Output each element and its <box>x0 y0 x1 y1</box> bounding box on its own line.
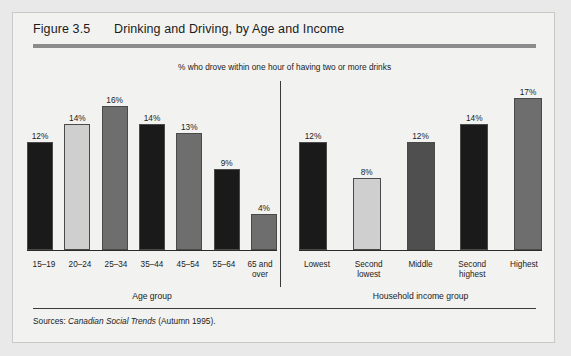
bar-column: 14% <box>460 88 488 250</box>
bar-rect <box>64 124 90 250</box>
bars-income: 12%8%12%14%17% <box>293 88 548 250</box>
bar-column: 9% <box>214 88 240 250</box>
axis-title-income: Household income group <box>293 291 548 301</box>
category-label: 55–64 <box>207 257 241 279</box>
bar-rect <box>407 142 435 250</box>
category-label: Second highest <box>454 257 490 279</box>
bar-rect <box>214 169 240 250</box>
category-label: Highest <box>506 257 542 279</box>
bar-rect <box>514 98 542 250</box>
category-label: Second lowest <box>351 257 387 279</box>
figure-number: Figure 3.5 <box>33 22 90 36</box>
axis-line-income <box>299 250 542 251</box>
bar-rect <box>27 142 53 250</box>
bar-column: 13% <box>176 88 202 250</box>
chart-age-group: 12%14%16%14%13%9%4% 15–1920–2425–3435–44… <box>21 75 283 301</box>
bar-value-label: 12% <box>412 132 429 140</box>
bar-column: 14% <box>64 88 90 250</box>
category-labels-income: LowestSecond lowestMiddleSecond highestH… <box>293 257 548 279</box>
bar-value-label: 14% <box>144 114 161 122</box>
bar-rect <box>460 124 488 250</box>
axis-title-age: Age group <box>21 291 283 301</box>
source-divider-rule <box>33 308 536 309</box>
bar-column: 12% <box>299 88 327 250</box>
category-label: Middle <box>403 257 439 279</box>
title-divider-rule <box>33 44 536 48</box>
bar-rect <box>139 124 165 250</box>
category-labels-age: 15–1920–2425–3435–4445–5455–6465 and ove… <box>21 257 283 279</box>
bars-age: 12%14%16%14%13%9%4% <box>21 88 283 250</box>
category-label: 45–54 <box>171 257 205 279</box>
bar-value-label: 12% <box>32 132 49 140</box>
source-suffix: (Autumn 1995). <box>158 316 215 326</box>
figure-title: Drinking and Driving, by Age and Income <box>114 22 344 36</box>
bar-rect <box>299 142 327 250</box>
bar-column: 8% <box>353 88 381 250</box>
bar-value-label: 4% <box>258 204 270 212</box>
bar-column: 12% <box>27 88 53 250</box>
chart-subtitle: % who drove within one hour of having tw… <box>13 62 556 72</box>
bar-value-label: 17% <box>520 88 537 96</box>
bar-rect <box>176 133 202 250</box>
bar-column: 16% <box>102 88 128 250</box>
category-label: 15–19 <box>27 257 61 279</box>
charts-container: 12%14%16%14%13%9%4% 15–1920–2425–3435–44… <box>13 75 556 301</box>
category-label: 20–24 <box>63 257 97 279</box>
source-publication: Canadian Social Trends <box>68 316 156 326</box>
source-line: Sources: Canadian Social Trends (Autumn … <box>33 316 216 326</box>
bar-value-label: 8% <box>361 168 373 176</box>
bar-column: 17% <box>514 88 542 250</box>
bar-rect <box>251 214 277 250</box>
axis-line-age <box>27 250 277 251</box>
chart-income-group: 12%8%12%14%17% LowestSecond lowestMiddle… <box>293 75 548 301</box>
bar-value-label: 14% <box>69 114 86 122</box>
bar-value-label: 9% <box>221 159 233 167</box>
bar-value-label: 16% <box>106 96 123 104</box>
figure-panel: Figure 3.5 Drinking and Driving, by Age … <box>12 12 555 343</box>
bar-value-label: 14% <box>466 114 483 122</box>
bar-column: 12% <box>407 88 435 250</box>
category-label: 35–44 <box>135 257 169 279</box>
figure-header: Figure 3.5 Drinking and Driving, by Age … <box>13 13 554 57</box>
bar-value-label: 13% <box>181 123 198 131</box>
category-label: Lowest <box>299 257 335 279</box>
bar-column: 14% <box>139 88 165 250</box>
source-prefix: Sources: <box>33 316 66 326</box>
category-label: 65 and over <box>243 257 277 279</box>
bar-value-label: 12% <box>305 132 322 140</box>
bar-rect <box>353 178 381 250</box>
bar-rect <box>102 106 128 250</box>
bar-column: 4% <box>251 88 277 250</box>
category-label: 25–34 <box>99 257 133 279</box>
